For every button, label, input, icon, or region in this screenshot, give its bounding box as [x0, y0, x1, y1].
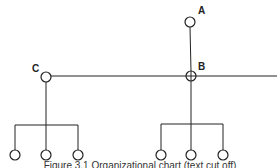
- node-a: [185, 17, 195, 27]
- label-a: A: [198, 5, 205, 16]
- node-c-child-3: [73, 150, 83, 160]
- node-b-child-2: [186, 150, 196, 160]
- node-b-child-1: [156, 150, 166, 160]
- node-c-child-1: [10, 150, 20, 160]
- label-b: B: [198, 61, 205, 72]
- node-c: [41, 72, 51, 82]
- tree-diagram: [0, 0, 280, 168]
- node-b-child-3: [218, 150, 228, 160]
- node-c-child-2: [41, 150, 51, 160]
- label-c: C: [32, 63, 39, 74]
- edge-a-b: [190, 27, 191, 71]
- figure-caption: Figure 3.1 Organizational chart (text cu…: [0, 160, 280, 168]
